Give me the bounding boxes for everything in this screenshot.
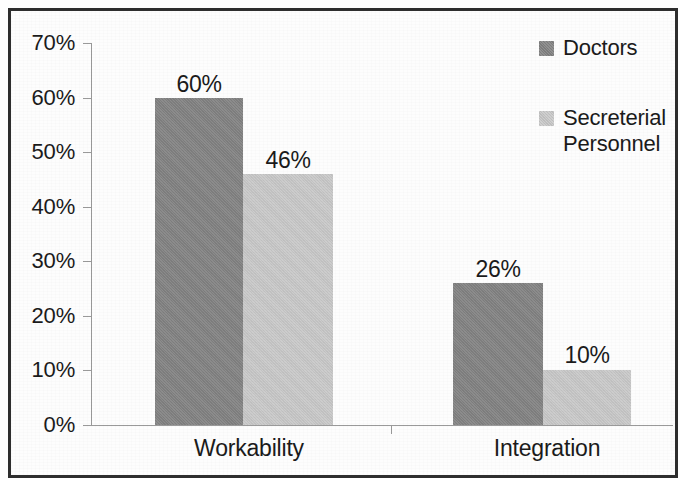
- legend-label-doctors: Doctors: [563, 35, 637, 61]
- plot-area: 70% 60% 50% 40% 30% 20% 10% 0% 60% 46% 2…: [11, 11, 678, 478]
- y-axis-tick-40: [83, 207, 92, 208]
- y-axis-label-10: 10%: [9, 357, 75, 383]
- y-axis-tick-60: [83, 98, 92, 99]
- bar-workability-doctors[interactable]: [155, 98, 243, 425]
- category-label-workability: Workability: [145, 435, 353, 462]
- y-axis-label-30: 30%: [9, 248, 75, 274]
- chart-frame: 70% 60% 50% 40% 30% 20% 10% 0% 60% 46% 2…: [8, 8, 678, 478]
- y-axis-label-20: 20%: [9, 303, 75, 329]
- bar-value-integration-doctors: 26%: [453, 256, 543, 283]
- bar-value-workability-secreterial: 46%: [243, 147, 333, 174]
- y-axis-label-60: 60%: [9, 85, 75, 111]
- bar-workability-secreterial[interactable]: [243, 174, 333, 425]
- y-axis-label-50: 50%: [9, 139, 75, 165]
- y-axis-label-40: 40%: [9, 194, 75, 220]
- bar-integration-doctors[interactable]: [453, 283, 543, 425]
- legend: Doctors Secreterial Personnel: [539, 35, 677, 201]
- y-axis-label-70: 70%: [9, 30, 75, 56]
- category-separator-tick: [391, 425, 392, 434]
- legend-item-secreterial-personnel[interactable]: Secreterial Personnel: [539, 105, 677, 157]
- legend-label-secreterial-personnel: Secreterial Personnel: [563, 105, 677, 157]
- y-axis-tick-20: [83, 316, 92, 317]
- legend-swatch-icon-secreterial-personnel: [539, 111, 554, 126]
- y-axis-tick-10: [83, 370, 92, 371]
- y-axis-tick-70: [83, 43, 92, 44]
- legend-item-doctors[interactable]: Doctors: [539, 35, 677, 61]
- y-axis-tick-30: [83, 261, 92, 262]
- category-label-integration: Integration: [443, 435, 651, 462]
- legend-swatch-icon-doctors: [539, 41, 554, 56]
- y-axis-line: [91, 43, 92, 425]
- x-axis-line: [91, 425, 673, 426]
- bar-integration-secreterial[interactable]: [543, 370, 631, 425]
- bar-value-workability-doctors: 60%: [155, 71, 243, 98]
- y-axis-label-0: 0%: [9, 412, 75, 438]
- y-axis-tick-0: [83, 425, 92, 426]
- y-axis-tick-50: [83, 152, 92, 153]
- bar-value-integration-secreterial: 10%: [543, 342, 631, 369]
